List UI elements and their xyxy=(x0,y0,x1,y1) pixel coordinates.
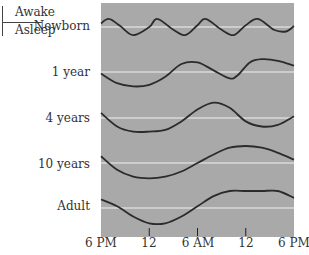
row-label-newborn: Newborn xyxy=(0,19,90,33)
chart-panel xyxy=(101,3,294,237)
row-label-1-year: 1 year xyxy=(0,65,90,79)
row-label-4-years: 4 years xyxy=(0,111,90,125)
x-tick-midnight: 12 xyxy=(141,236,156,250)
row-label-adult: Adult xyxy=(0,199,90,213)
x-tick-6pm-end: 6 PM xyxy=(278,236,309,250)
x-tick-6am: 6 AM xyxy=(182,236,214,250)
legend-awake-label: Awake xyxy=(15,5,55,19)
row-label-10-years: 10 years xyxy=(0,157,90,171)
x-tick-6pm-start: 6 PM xyxy=(85,236,117,250)
x-tick-noon: 12 xyxy=(238,236,253,250)
sleep-wake-chart xyxy=(0,0,309,255)
